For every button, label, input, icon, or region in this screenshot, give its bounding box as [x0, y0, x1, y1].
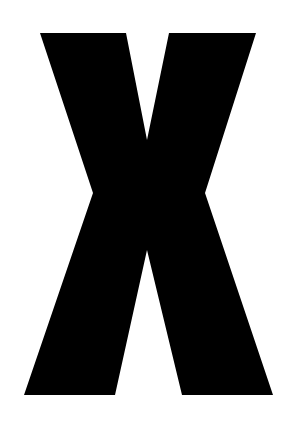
letter-x-shape	[24, 33, 273, 395]
letter-x-icon	[0, 0, 286, 427]
letter-canvas: X	[0, 0, 286, 427]
